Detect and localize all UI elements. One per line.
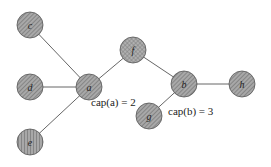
graph-canvas: cdafbhge cap(a) = 2cap(b) = 3 <box>0 0 271 167</box>
nodes-layer: cdafbhge <box>17 12 255 155</box>
node-h: h <box>229 71 255 97</box>
node-label: h <box>240 79 245 90</box>
cap-b-label: cap(b) = 3 <box>168 105 214 118</box>
node-c: c <box>17 12 43 38</box>
node-label: c <box>28 20 33 31</box>
node-label: g <box>147 111 152 122</box>
node-label: b <box>182 79 187 90</box>
node-b: b <box>171 71 197 97</box>
node-label: a <box>87 82 92 93</box>
graph-diagram: cdafbhge cap(a) = 2cap(b) = 3 <box>0 0 271 167</box>
node-label: e <box>28 137 33 148</box>
node-e: e <box>17 129 43 155</box>
node-d: d <box>17 74 43 100</box>
node-g: g <box>136 103 162 129</box>
node-f: f <box>120 37 146 63</box>
cap-a-label: cap(a) = 2 <box>91 96 136 109</box>
